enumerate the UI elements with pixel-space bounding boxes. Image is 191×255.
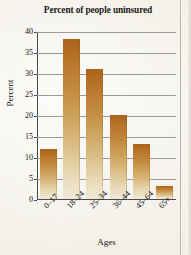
y-axis-title: Percent (5, 57, 15, 129)
bar (110, 115, 127, 199)
y-axis-tick-label: 35 (7, 49, 33, 57)
bar (40, 149, 57, 199)
bar-series (37, 32, 176, 200)
y-axis-tick-label: 10 (7, 154, 33, 162)
y-axis-tick-label: 15 (7, 133, 33, 141)
bar (86, 69, 103, 199)
y-axis-tick-label: 0 (7, 196, 33, 204)
bar (156, 186, 173, 199)
page-edge-line (180, 0, 181, 255)
y-axis-tick-label: 40 (7, 28, 33, 36)
bar (133, 144, 150, 199)
x-axis-title: Ages (37, 237, 176, 247)
y-axis-tick-label: 5 (7, 175, 33, 183)
bar (63, 39, 80, 199)
y-axis-tick-mark (34, 200, 37, 201)
plot-area (37, 32, 176, 200)
chart-title: Percent of people uninsured (18, 4, 178, 16)
page-outer-margin (188, 0, 191, 255)
